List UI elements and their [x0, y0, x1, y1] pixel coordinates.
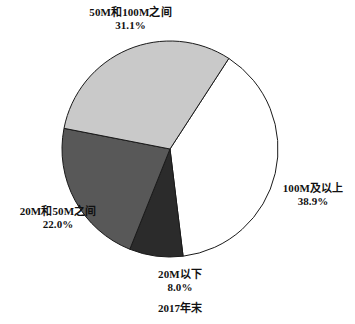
- chart-caption: 2017年末: [128, 299, 232, 315]
- pie-label-50m-100m-value: 31.1%: [58, 19, 203, 32]
- pie-label-under-20m-name: 20M以下: [128, 268, 232, 281]
- pie-label-20m-50m: 20M和50M之间 22.0%: [2, 205, 114, 232]
- pie-label-50m-100m: 50M和100M之间 31.1%: [58, 6, 203, 33]
- pie-label-100m-plus-name: 100M及以上: [272, 182, 354, 195]
- pie-label-100m-plus: 100M及以上 38.9%: [272, 182, 354, 209]
- pie-label-20m-50m-value: 22.0%: [2, 218, 114, 231]
- pie-label-under-20m-value: 8.0%: [128, 281, 232, 294]
- pie-label-under-20m: 20M以下 8.0%: [128, 268, 232, 295]
- pie-chart: 50M和100M之间 31.1% 100M及以上 38.9% 20M和50M之间…: [0, 0, 355, 324]
- pie-label-100m-plus-value: 38.9%: [272, 195, 354, 208]
- pie-label-20m-50m-name: 20M和50M之间: [2, 205, 114, 218]
- pie-label-50m-100m-name: 50M和100M之间: [58, 6, 203, 19]
